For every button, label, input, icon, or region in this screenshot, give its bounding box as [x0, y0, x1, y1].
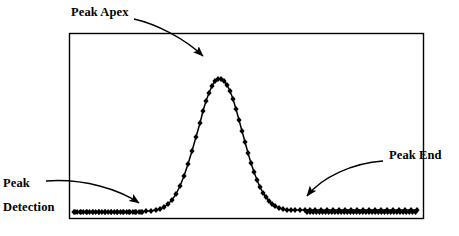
peak-detection-label: Peak Detection [3, 176, 55, 215]
peak-apex-label: Peak Apex [71, 5, 129, 20]
peak-end-arrow [307, 161, 383, 196]
trace-line [75, 79, 417, 212]
figure-canvas: Peak Apex Peak Detection Peak End [0, 0, 459, 236]
peak-end-label: Peak End [389, 148, 442, 163]
chromatogram-figure [0, 0, 459, 236]
plot-frame [70, 34, 424, 219]
peak-detection-arrow [46, 181, 139, 203]
peak-detection-label-line2: Detection [3, 200, 55, 215]
peak-apex-arrow [134, 19, 203, 56]
peak-detection-label-line1: Peak [3, 176, 30, 190]
